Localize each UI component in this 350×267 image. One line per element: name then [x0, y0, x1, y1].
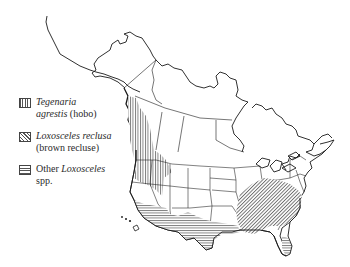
- legend-item-brown-recluse: Loxosceles reclusa (brown recluse): [19, 130, 111, 154]
- horizontal-hatch-swatch-icon: [19, 165, 31, 175]
- canada-north: [156, 60, 314, 170]
- atlantic-coast: [306, 134, 334, 156]
- brown-recluse-range: [236, 178, 302, 234]
- hawaii: [121, 216, 139, 231]
- alaska: [46, 16, 156, 92]
- legend-label-other-loxosceles: Other Loxosceles spp.: [36, 163, 105, 187]
- legend-item-hobo: Tegenaria agrestis (hobo): [19, 96, 96, 120]
- legend-item-other-loxosceles: Other Loxosceles spp.: [19, 163, 105, 187]
- vertical-hatch-swatch-icon: [19, 98, 31, 108]
- great-lakes: [256, 152, 300, 172]
- legend-label-hobo: Tegenaria agrestis (hobo): [36, 96, 96, 120]
- other-loxosceles-range-sw: [134, 200, 240, 250]
- legend-label-brown-recluse: Loxosceles reclusa (brown recluse): [36, 130, 111, 154]
- diagonal-hatch-swatch-icon: [19, 132, 31, 142]
